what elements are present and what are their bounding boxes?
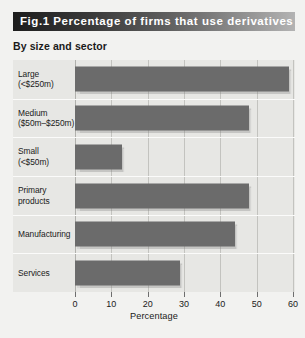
gridline	[257, 216, 258, 254]
x-axis-tick	[148, 292, 149, 297]
gridline	[184, 138, 185, 176]
x-axis-tick	[257, 292, 258, 297]
bar	[75, 106, 249, 131]
x-axis-tick	[111, 292, 112, 297]
gridline	[257, 100, 258, 138]
x-axis-tick-label: 30	[179, 299, 189, 309]
bar-chart-plot-area: Large(<$250m)Medium($50m–$250m)Small(<$5…	[13, 60, 295, 292]
x-axis-tick	[184, 292, 185, 297]
bar-chart-row: Manufacturing	[13, 215, 295, 254]
x-axis-tick	[75, 292, 76, 297]
figure-title-banner: Fig.1 Percentage of firms that use deriv…	[13, 12, 295, 31]
category-label: Small(<$50m)	[13, 146, 75, 168]
row-plot-region	[75, 100, 295, 138]
gridline	[220, 254, 221, 292]
gridline	[293, 138, 294, 176]
x-axis-title: Percentage	[13, 311, 295, 321]
figure-container: Fig.1 Percentage of firms that use deriv…	[0, 0, 305, 338]
bar-chart-row: Services	[13, 253, 295, 292]
gridline	[257, 138, 258, 176]
gridline	[293, 100, 294, 138]
row-plot-region	[75, 138, 295, 176]
category-label-sub: (<$50m)	[18, 157, 49, 167]
gridline	[293, 60, 294, 99]
gridline	[220, 138, 221, 176]
bar	[75, 183, 249, 208]
category-label-sub: (<$250m)	[18, 79, 54, 89]
bar	[75, 222, 235, 247]
row-plot-region	[75, 216, 295, 254]
bar	[75, 145, 122, 170]
bar-chart-row: Large(<$250m)	[13, 60, 295, 99]
category-label-sub: products	[18, 196, 50, 206]
x-axis-tick-label: 50	[252, 299, 262, 309]
gridline	[184, 254, 185, 292]
x-axis-tick-label: 60	[288, 299, 298, 309]
x-axis-tick-label: 20	[143, 299, 153, 309]
row-plot-region	[75, 60, 295, 99]
gridline	[293, 254, 294, 292]
x-axis-tick-label: 40	[215, 299, 225, 309]
category-label: Primaryproducts	[13, 185, 75, 207]
row-plot-region	[75, 254, 295, 292]
gridline	[148, 138, 149, 176]
row-plot-region	[75, 177, 295, 215]
gridline	[257, 254, 258, 292]
bar	[75, 261, 180, 286]
bar-chart-row: Small(<$50m)	[13, 137, 295, 176]
bar-chart-row: Primaryproducts	[13, 176, 295, 215]
figure-subtitle: By size and sector	[13, 40, 107, 52]
gridline	[293, 177, 294, 215]
gridline	[257, 177, 258, 215]
category-label-sub: ($50m–$250m)	[18, 118, 74, 128]
x-axis-tick	[293, 292, 294, 297]
category-label: Medium($50m–$250m)	[13, 108, 75, 130]
bar-chart-row: Medium($50m–$250m)	[13, 99, 295, 138]
x-axis-tick-label: 0	[72, 299, 77, 309]
category-label: Services	[13, 268, 75, 279]
x-axis: Percentage 0102030405060	[13, 292, 295, 336]
gridline	[293, 216, 294, 254]
bar	[75, 67, 289, 92]
x-axis-tick-label: 10	[106, 299, 116, 309]
x-axis-tick	[220, 292, 221, 297]
category-label: Manufacturing	[13, 229, 75, 240]
category-label: Large(<$250m)	[13, 69, 75, 91]
figure-title: Fig.1 Percentage of firms that use deriv…	[13, 16, 293, 28]
